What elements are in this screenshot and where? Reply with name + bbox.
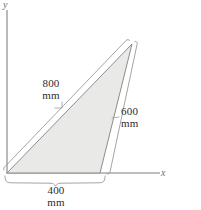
hypotenuse-leader-tick [55, 102, 62, 108]
x-axis-label: x [161, 167, 165, 178]
dimension-unit-600: mm [121, 118, 161, 130]
dimension-unit-400: mm [25, 197, 87, 209]
triangle-polygon [7, 44, 132, 173]
y-axis-label: y [3, 0, 7, 10]
figure-canvas [0, 0, 201, 210]
dimension-label-600: 600 mm [121, 106, 161, 130]
dimension-label-400: 400 mm [25, 185, 87, 209]
triangle-dimension-figure: 800 mm 600 mm 400 mm y x [0, 0, 201, 210]
dimension-unit-800: mm [30, 90, 72, 102]
triangle-shape [7, 44, 132, 173]
dimension-label-800: 800 mm [30, 78, 72, 102]
